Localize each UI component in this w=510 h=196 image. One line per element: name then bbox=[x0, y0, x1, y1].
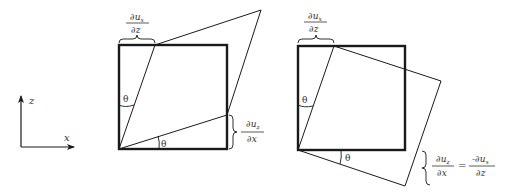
svg-text:∂z: ∂z bbox=[131, 25, 141, 35]
rotated-square bbox=[298, 46, 441, 186]
svg-text:∂ux: ∂ux bbox=[130, 12, 144, 23]
fraction-duz-dx-left: ∂uz ∂x bbox=[241, 119, 264, 144]
svg-text:∂uz: ∂uz bbox=[436, 154, 450, 165]
svg-text:∂x: ∂x bbox=[247, 134, 257, 144]
angle-arc-bottom bbox=[340, 150, 341, 164]
equation-duz-dx-equals-minus-dux-dz: ∂uz ∂x = -∂ux ∂z bbox=[432, 154, 495, 178]
svg-text:∂uz: ∂uz bbox=[246, 119, 260, 130]
angle-arc-top bbox=[119, 105, 134, 107]
angle-arc-bottom bbox=[158, 136, 159, 149]
fraction-dux-dz-top-left: ∂ux ∂z bbox=[126, 12, 149, 35]
angle-arc-top bbox=[298, 105, 313, 107]
brace-right bbox=[229, 115, 237, 149]
brace-top bbox=[119, 35, 155, 43]
x-axis-label: x bbox=[64, 132, 70, 143]
left-diagram-pure-shear: θ θ ∂ux ∂z ∂uz ∂x bbox=[119, 10, 264, 149]
angle-theta-bottom: θ bbox=[161, 139, 166, 149]
svg-text:-∂ux: -∂ux bbox=[472, 154, 490, 165]
angle-theta-bottom: θ bbox=[345, 153, 350, 163]
coordinate-axes: z x bbox=[21, 95, 74, 147]
right-diagram-rotation: θ θ ∂ux ∂z ∂uz ∂x = -∂ux ∂z bbox=[298, 11, 495, 186]
original-square bbox=[298, 46, 405, 150]
svg-text:∂ux: ∂ux bbox=[308, 11, 322, 22]
z-axis-label: z bbox=[28, 95, 35, 106]
fraction-dux-dz-top-right: ∂ux ∂z bbox=[304, 11, 327, 34]
original-square bbox=[119, 45, 227, 149]
angle-theta-top: θ bbox=[302, 95, 307, 105]
svg-text:∂x: ∂x bbox=[437, 168, 447, 178]
brace-bottom-right bbox=[422, 151, 430, 185]
svg-text:=: = bbox=[458, 160, 466, 171]
angle-theta-top: θ bbox=[123, 94, 128, 104]
svg-text:∂z: ∂z bbox=[309, 24, 319, 34]
brace-top bbox=[298, 35, 334, 43]
svg-text:∂z: ∂z bbox=[476, 168, 486, 178]
shear-rotation-diagram: z x θ θ ∂ux ∂z ∂uz ∂x θ θ bbox=[0, 0, 510, 196]
